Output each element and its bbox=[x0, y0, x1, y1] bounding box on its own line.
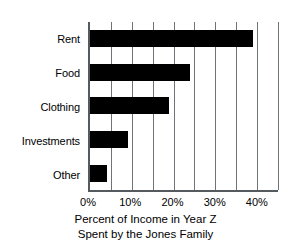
plot-area bbox=[88, 22, 278, 192]
bar-row bbox=[90, 89, 278, 123]
gridline bbox=[278, 22, 279, 190]
bar-rent bbox=[90, 30, 253, 47]
bar-row bbox=[90, 22, 278, 56]
bar-food bbox=[90, 64, 190, 81]
category-label-investments: Investments bbox=[22, 136, 80, 147]
category-label-food: Food bbox=[55, 68, 80, 79]
bar-row bbox=[90, 156, 278, 190]
bar-other bbox=[90, 165, 107, 182]
bar-investments bbox=[90, 131, 128, 148]
category-axis: Rent Food Clothing Investments Other bbox=[0, 22, 84, 192]
category-axis-cell: Rent bbox=[0, 22, 84, 56]
x-tick-label: 20% bbox=[161, 196, 183, 208]
x-tick-label: 30% bbox=[204, 196, 226, 208]
x-tick-label: 0% bbox=[80, 196, 96, 208]
category-label-clothing: Clothing bbox=[40, 102, 80, 113]
category-axis-cell: Food bbox=[0, 56, 84, 90]
category-label-other: Other bbox=[53, 170, 80, 181]
x-axis: 0%10%20%30%40% bbox=[88, 192, 278, 214]
category-label-rent: Rent bbox=[57, 34, 80, 45]
bar-series bbox=[90, 22, 278, 190]
chart-caption: Percent of Income in Year Z Spent by the… bbox=[0, 212, 291, 242]
x-tick-label: 40% bbox=[246, 196, 268, 208]
bar-row bbox=[90, 56, 278, 90]
bar-chart-figure: Rent Food Clothing Investments Other bbox=[0, 0, 291, 245]
caption-line-2: Spent by the Jones Family bbox=[0, 227, 291, 242]
caption-line-1: Percent of Income in Year Z bbox=[0, 212, 291, 227]
bar-row bbox=[90, 123, 278, 157]
x-tick-label: 10% bbox=[119, 196, 141, 208]
category-axis-cell: Clothing bbox=[0, 90, 84, 124]
category-axis-cell: Other bbox=[0, 158, 84, 192]
bar-clothing bbox=[90, 97, 169, 114]
category-axis-cell: Investments bbox=[0, 124, 84, 158]
